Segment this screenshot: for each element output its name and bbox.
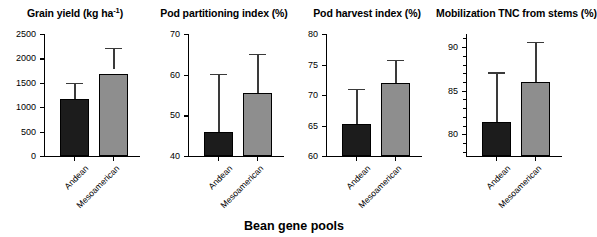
plot-area-pod-partitioning-index: 40 50 60 70 Andean Mesoamerican — [188, 34, 284, 156]
error-bar-cap — [249, 54, 266, 55]
panel-title-grain-yield: Grain yield (kg ha-1) — [0, 7, 150, 19]
y-tick — [322, 95, 327, 96]
y-tick-label: 80 — [290, 30, 318, 39]
x-axis-title: Bean gene pools — [0, 219, 588, 233]
bar-mesoamerican — [381, 83, 410, 156]
y-tick — [184, 115, 189, 116]
bar-andean — [482, 122, 511, 156]
y-tick-label: 65 — [290, 122, 318, 131]
y-axis-line — [326, 34, 327, 157]
y-tick-label: 90 — [432, 43, 458, 52]
y-tick-label: 85 — [432, 87, 458, 96]
y-tick-label: 0 — [2, 152, 36, 161]
x-tick — [356, 156, 357, 161]
bar-mesoamerican — [521, 82, 550, 156]
x-tick — [535, 156, 536, 161]
error-bar-cap — [105, 48, 122, 49]
panel-pod-partitioning-index: Pod partitioning index (%) 40 50 60 70 — [150, 0, 298, 205]
panel-title-text: Pod harvest index (%) — [313, 7, 421, 19]
panel-title-tail: ) — [120, 7, 123, 19]
bar-andean — [204, 132, 233, 156]
y-tick — [40, 83, 45, 84]
y-tick-label: 70 — [152, 30, 180, 39]
error-bar-stem — [395, 60, 396, 83]
panel-title-text: Mobilization TNC from stems (%) — [436, 7, 597, 19]
panel-title-pod-harvest-index: Pod harvest index (%) — [298, 7, 436, 19]
y-tick — [40, 34, 45, 35]
error-bar-cap — [527, 42, 544, 43]
y-tick-minor — [463, 38, 466, 39]
x-axis-line — [188, 156, 284, 157]
x-category-label-mesoamerican: Mesoamerican — [340, 164, 403, 227]
bar-mesoamerican — [99, 74, 128, 156]
y-tick — [462, 47, 467, 48]
panel-title-pod-partitioning-index: Pod partitioning index (%) — [150, 7, 298, 19]
error-bar-stem — [218, 74, 219, 133]
x-tick — [74, 156, 75, 161]
y-tick-minor — [463, 99, 466, 100]
y-tick-minor — [463, 56, 466, 57]
error-bar-stem — [535, 42, 536, 82]
panel-grain-yield: Grain yield (kg ha-1) 0 500 1000 1500 20… — [0, 0, 150, 205]
error-bar-cap — [66, 83, 83, 84]
y-tick-label: 75 — [290, 61, 318, 70]
y-tick-minor — [463, 117, 466, 118]
error-bar-stem — [257, 54, 258, 94]
y-tick-label: 500 — [2, 128, 36, 137]
y-tick — [322, 65, 327, 66]
error-bar-cap — [348, 89, 365, 90]
y-axis-line — [466, 34, 467, 157]
y-tick-label: 2500 — [2, 30, 36, 39]
x-category-label-mesoamerican: Mesoamerican — [202, 164, 265, 227]
y-tick-minor — [463, 82, 466, 83]
x-tick — [218, 156, 219, 161]
panel-pod-harvest-index: Pod harvest index (%) 60 65 70 75 80 — [298, 0, 436, 205]
x-axis-line — [44, 156, 140, 157]
y-tick — [40, 132, 45, 133]
error-bar-stem — [74, 83, 75, 100]
y-tick — [322, 156, 327, 157]
bar-mesoamerican — [243, 93, 272, 156]
y-tick-label: 40 — [152, 152, 180, 161]
y-tick-label: 80 — [432, 130, 458, 139]
y-tick-minor — [463, 73, 466, 74]
bar-andean — [60, 99, 89, 156]
y-tick — [184, 156, 189, 157]
error-bar-stem — [113, 48, 114, 70]
bar-andean — [342, 124, 371, 156]
y-axis-line — [44, 34, 45, 157]
error-bar-cap — [488, 72, 505, 73]
panels-row: Grain yield (kg ha-1) 0 500 1000 1500 20… — [0, 0, 588, 205]
error-bar-cap — [210, 74, 227, 75]
y-tick — [40, 58, 45, 59]
y-tick — [40, 156, 45, 157]
error-bar-cap — [387, 60, 404, 61]
y-tick-label: 60 — [152, 71, 180, 80]
y-tick-label: 1500 — [2, 79, 36, 88]
x-axis-line — [326, 156, 422, 157]
x-tick — [496, 156, 497, 161]
x-category-label-mesoamerican: Mesoamerican — [480, 164, 543, 227]
y-tick-minor — [463, 126, 466, 127]
error-bar-stem — [496, 72, 497, 121]
x-category-label-mesoamerican: Mesoamerican — [58, 164, 121, 227]
panel-title-text: Pod partitioning index (%) — [160, 7, 287, 19]
x-tick — [395, 156, 396, 161]
panel-title-text: Grain yield (kg ha — [27, 7, 113, 19]
x-tick — [113, 156, 114, 161]
y-tick-label: 60 — [290, 152, 318, 161]
y-tick-label: 1000 — [2, 103, 36, 112]
y-tick-minor — [463, 143, 466, 144]
y-tick — [40, 107, 45, 108]
y-tick-label: 2000 — [2, 54, 36, 63]
y-tick-minor — [463, 108, 466, 109]
y-tick — [462, 91, 467, 92]
y-tick-label: 70 — [290, 91, 318, 100]
y-tick — [322, 126, 327, 127]
panel-mobilization-tnc: Mobilization TNC from stems (%) — [436, 0, 588, 205]
plot-area-pod-harvest-index: 60 65 70 75 80 Andean Mesoamerican — [326, 34, 422, 156]
y-tick-label: 50 — [152, 111, 180, 120]
error-bar-stem — [356, 89, 357, 124]
y-axis-line — [188, 34, 189, 157]
